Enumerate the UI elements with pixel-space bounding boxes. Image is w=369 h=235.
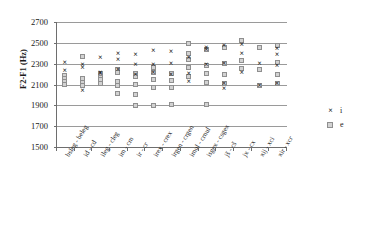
data-point-i: × <box>221 85 228 93</box>
x-axis-tick <box>251 147 252 151</box>
y-axis-tick <box>54 64 57 65</box>
data-point-i: × <box>114 66 121 74</box>
data-point-i: × <box>203 46 210 54</box>
data-point-e <box>62 82 67 87</box>
legend-label: i <box>340 106 342 115</box>
data-point-i: × <box>79 64 86 72</box>
y-axis-tick-label: 2300 <box>14 60 48 69</box>
x-axis-tick <box>180 147 181 151</box>
x-axis-tick <box>268 147 269 151</box>
data-point-e <box>169 85 174 90</box>
data-point-i: × <box>185 54 192 62</box>
y-axis-tick <box>54 22 57 23</box>
data-point-i: × <box>150 69 157 77</box>
data-point-i: × <box>185 78 192 86</box>
y-axis-tick <box>54 43 57 44</box>
data-point-i: × <box>168 48 175 56</box>
gridline <box>57 126 287 127</box>
data-point-e <box>186 41 191 46</box>
data-point-e <box>151 85 156 90</box>
data-point-i: × <box>274 51 281 59</box>
data-point-e <box>80 54 85 59</box>
data-point-i: × <box>238 41 245 49</box>
data-point-i: × <box>256 60 263 68</box>
data-point-i: × <box>168 71 175 79</box>
data-point-e <box>257 67 262 72</box>
data-point-i: × <box>238 50 245 58</box>
y-axis-tick-label: 1900 <box>14 101 48 110</box>
data-point-i: × <box>132 71 139 79</box>
data-point-e <box>275 72 280 77</box>
data-point-i: × <box>132 61 139 69</box>
gridline <box>57 22 287 23</box>
x-axis-tick <box>91 147 92 151</box>
gridline <box>57 43 287 44</box>
data-point-i: × <box>203 61 210 69</box>
data-point-e <box>169 78 174 83</box>
data-point-i: × <box>274 62 281 70</box>
data-point-i: × <box>79 87 86 95</box>
legend-square-icon <box>327 122 333 128</box>
data-point-i: × <box>150 47 157 55</box>
data-point-e <box>257 45 262 50</box>
data-point-i: × <box>256 82 263 90</box>
y-axis-tick-label: 1500 <box>14 143 48 152</box>
y-axis-tick-label: 2500 <box>14 39 48 48</box>
data-point-e <box>204 71 209 76</box>
y-axis-tick <box>54 85 57 86</box>
x-axis-tick <box>233 147 234 151</box>
data-point-e <box>133 103 138 108</box>
y-axis-tick-labels: 1500170019002100230025002700 <box>14 0 48 235</box>
chart-figure: F2-F1 (Hz) 1500170019002100230025002700 … <box>0 0 369 235</box>
y-axis-tick-label: 1700 <box>14 122 48 131</box>
data-point-i: × <box>221 42 228 50</box>
legend-cross-icon: × <box>326 106 335 115</box>
data-point-i: × <box>114 56 121 64</box>
data-point-e <box>98 81 103 86</box>
y-axis-tick <box>54 105 57 106</box>
x-axis-tick <box>127 147 128 151</box>
x-axis-tick <box>109 147 110 151</box>
data-point-e <box>222 72 227 77</box>
data-point-e <box>151 77 156 82</box>
data-point-e <box>115 83 120 88</box>
x-axis-tick <box>74 147 75 151</box>
data-point-i: × <box>97 54 104 62</box>
data-point-i: × <box>132 51 139 59</box>
data-point-i: × <box>274 80 281 88</box>
data-point-e <box>151 103 156 108</box>
y-axis-tick-label: 2700 <box>14 18 48 27</box>
data-point-e <box>115 91 120 96</box>
data-point-i: × <box>168 60 175 68</box>
x-axis-tick <box>162 147 163 151</box>
data-point-e <box>239 58 244 63</box>
data-point-i: × <box>238 69 245 77</box>
data-point-i: × <box>185 70 192 78</box>
x-axis-tick <box>56 147 57 151</box>
data-point-e <box>133 82 138 87</box>
data-point-i: × <box>97 70 104 78</box>
y-axis-tick-label: 2100 <box>14 81 48 90</box>
data-point-i: × <box>61 67 68 75</box>
legend-label: e <box>340 120 344 129</box>
data-point-i: × <box>221 60 228 68</box>
data-point-e <box>204 80 209 85</box>
y-axis-tick <box>54 126 57 127</box>
data-point-e <box>204 102 209 107</box>
x-axis-tick <box>198 147 199 151</box>
x-axis-tick <box>144 147 145 151</box>
x-axis-tick <box>215 147 216 151</box>
x-axis-tick <box>286 147 287 151</box>
data-point-e <box>169 102 174 107</box>
data-point-e <box>133 92 138 97</box>
